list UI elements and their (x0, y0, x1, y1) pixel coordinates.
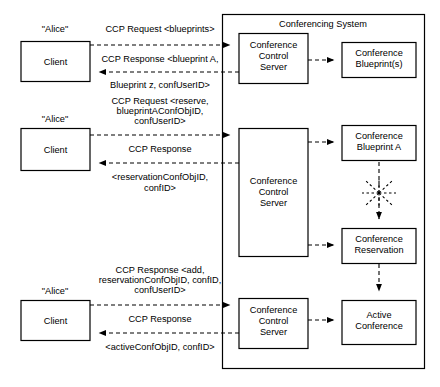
ccs-1-line2: Control (259, 51, 289, 61)
conference-reservation-line2: Reservation (354, 245, 403, 255)
conferencing-system-diagram: Conferencing System "Alice" Client Confe… (0, 0, 440, 387)
ccs-2-line1: Conference (250, 176, 298, 186)
ccs-3-line2: Control (259, 316, 289, 326)
message-1-response-label-line2: Blueprint z, confUserID> (110, 80, 210, 90)
conference-blueprint-a-line2: Blueprint A (357, 142, 402, 152)
ccs-3-line1: Conference (250, 305, 298, 315)
actor-label-3: "Alice" (42, 286, 68, 296)
conference-reservation-line1: Conference (355, 234, 403, 244)
conference-blueprints-line1: Conference (355, 48, 403, 58)
ccs-1-line1: Conference (250, 40, 298, 50)
message-2-response-label-line1: CCP Response (128, 144, 191, 154)
client-box-3-label: Client (44, 316, 68, 326)
conference-blueprint-a-line1: Conference (355, 131, 403, 141)
message-3-request-label-line1: CCP Response <add, (116, 265, 205, 275)
message-3-request-label-line2: reservationConfObjID, confID, (99, 275, 222, 285)
conferencing-system-label: Conferencing System (279, 19, 367, 29)
message-2-request-label-line2: blueprintAConfObjID, (117, 106, 204, 116)
conference-blueprints-line2: Blueprint(s) (356, 59, 403, 69)
active-conference-line1: Active (366, 310, 391, 320)
actor-label-2: "Alice" (42, 114, 68, 124)
message-3-request-label-line3: confUserID> (134, 285, 185, 295)
message-2-response-label-line2: <reservationConfObjID, (112, 172, 208, 182)
instantiation-burst-icon (362, 178, 396, 208)
message-1-request-label: CCP Request <blueprints> (105, 24, 214, 34)
message-3-response-label-line1: CCP Response (128, 314, 191, 324)
client-box-1-label: Client (44, 57, 68, 67)
ccs-2-line2: Control (259, 187, 289, 197)
client-box-2-label: Client (44, 145, 68, 155)
message-2-request-label-line1: CCP Request <reserve, (111, 96, 208, 106)
message-2-response-label-line3: confID> (144, 183, 176, 193)
active-conference-line2: Conference (355, 321, 403, 331)
message-3-response-label-line2: <activeConfObjID, confID> (105, 342, 214, 352)
ccs-2-line3: Server (260, 198, 287, 208)
actor-label-1: "Alice" (42, 24, 68, 34)
ccs-3-line3: Server (260, 327, 287, 337)
message-2-request-label-line3: confUserID> (134, 116, 185, 126)
diagram-root: Conferencing System "Alice" Client Confe… (0, 0, 440, 387)
message-1-response-label-line1: CCP Response <blueprint A, (101, 54, 218, 64)
ccs-1-line3: Server (260, 62, 287, 72)
